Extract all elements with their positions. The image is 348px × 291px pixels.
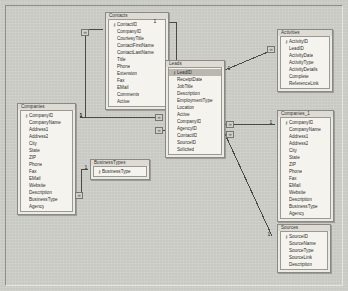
field-name: SourceType — [289, 247, 314, 254]
field-row[interactable]: LeadID — [281, 45, 329, 52]
field-row[interactable]: ZIP — [21, 154, 72, 161]
field-name: SourceLink — [289, 254, 312, 261]
field-row[interactable]: Website — [21, 182, 72, 189]
field-row[interactable]: JobTitle — [169, 83, 221, 90]
field-row[interactable]: ContactFirstName — [109, 42, 165, 49]
field-name: Fax — [29, 168, 37, 175]
field-row[interactable]: EMail — [109, 84, 165, 91]
field-row[interactable]: Agency — [21, 203, 72, 210]
field-row[interactable]: Phone — [21, 161, 72, 168]
field-name: CompanyName — [289, 126, 321, 133]
field-row[interactable]: Fax — [21, 168, 72, 175]
field-row-primary-key[interactable]: ⚷LeadID — [169, 69, 221, 76]
field-name: CompanyID — [289, 119, 313, 126]
field-row[interactable]: Location — [169, 104, 221, 111]
field-row[interactable]: CourtesyTitle — [109, 35, 165, 42]
cardinality-many-badge: ∞ — [155, 114, 163, 121]
field-name: SourceID — [289, 233, 308, 240]
field-row[interactable]: City — [21, 140, 72, 147]
field-row[interactable]: Description — [169, 90, 221, 97]
field-row[interactable]: EmploymentType — [169, 97, 221, 104]
cardinality-one-badge: 1 — [226, 66, 232, 71]
field-row[interactable]: Address1 — [281, 133, 330, 140]
field-row[interactable]: Solicited — [169, 146, 221, 153]
cardinality-many-badge: ∞ — [155, 127, 163, 134]
field-row[interactable]: Phone — [281, 168, 330, 175]
field-list: ⚷LeadIDReceiptDateJobTitleDescriptionEmp… — [168, 67, 222, 155]
field-name: ActivityID — [289, 38, 308, 45]
relationship-line[interactable] — [225, 134, 272, 236]
field-row[interactable]: Title — [109, 56, 165, 63]
field-row[interactable]: ReceiptDate — [169, 76, 221, 83]
field-row[interactable]: Fax — [281, 175, 330, 182]
field-name: ContactID — [177, 132, 197, 139]
field-row[interactable]: Phone — [109, 63, 165, 70]
field-row[interactable]: BusinessType — [281, 203, 330, 210]
field-row-primary-key[interactable]: ⚷BusinessType — [94, 168, 146, 175]
field-row[interactable]: ActivityDetails — [281, 66, 329, 73]
field-row[interactable]: SourceLink — [281, 254, 327, 261]
field-row-primary-key[interactable]: ⚷CompanyID — [281, 119, 330, 126]
field-row[interactable]: Website — [281, 189, 330, 196]
field-row[interactable]: Address2 — [281, 140, 330, 147]
field-row-primary-key[interactable]: ⚷SourceID — [281, 233, 327, 240]
field-row[interactable]: Description — [281, 261, 327, 268]
field-row[interactable]: Active — [169, 111, 221, 118]
field-name: SourceID — [177, 139, 196, 146]
cardinality-many-badge: ∞ — [267, 46, 275, 53]
field-row[interactable]: AgencyID — [169, 125, 221, 132]
field-row[interactable]: BusinessType — [21, 196, 72, 203]
field-row[interactable]: CompanyName — [21, 119, 72, 126]
field-row[interactable]: Description — [281, 196, 330, 203]
table-card[interactable]: Activities⚷ActivityIDLeadIDActivityDateA… — [277, 29, 333, 92]
field-row[interactable]: Description — [21, 189, 72, 196]
field-row[interactable]: CompanyID — [109, 28, 165, 35]
relationships-canvas[interactable]: Contacts⚷ContactIDCompanyIDCourtesyTitle… — [0, 0, 348, 291]
field-name: ActivityDetails — [289, 66, 318, 73]
field-row[interactable]: ReferenceLink — [281, 80, 329, 87]
field-row[interactable]: SourceID — [169, 139, 221, 146]
field-row[interactable]: EMail — [21, 175, 72, 182]
table-card[interactable]: Contacts⚷ContactIDCompanyIDCourtesyTitle… — [105, 12, 169, 110]
field-name: CompanyID — [177, 118, 201, 125]
field-row[interactable]: ContactID — [169, 132, 221, 139]
field-row[interactable]: State — [281, 154, 330, 161]
field-row-primary-key[interactable]: ⚷CompanyID — [21, 112, 72, 119]
field-row[interactable]: ActivityDate — [281, 52, 329, 59]
table-card[interactable]: Companies_1⚷CompanyIDCompanyNameAddress1… — [277, 110, 334, 222]
field-row[interactable]: SourceName — [281, 240, 327, 247]
relationship-line[interactable] — [80, 29, 103, 117]
field-row[interactable]: ZIP — [281, 161, 330, 168]
field-row[interactable]: EMail — [281, 182, 330, 189]
table-card[interactable]: Companies⚷CompanyIDCompanyNameAddress1Ad… — [17, 103, 76, 215]
field-row[interactable]: Fax — [109, 77, 165, 84]
cardinality-one-badge: 1 — [268, 120, 274, 125]
field-row[interactable]: Active — [109, 98, 165, 105]
cardinality-one-badge: 1 — [152, 19, 158, 24]
field-name: Solicited — [177, 146, 194, 153]
field-name: ContactID — [117, 21, 137, 28]
field-row[interactable]: CompanyName — [281, 126, 330, 133]
field-row-primary-key[interactable]: ⚷ActivityID — [281, 38, 329, 45]
field-row[interactable]: City — [281, 147, 330, 154]
field-row[interactable]: Address1 — [21, 126, 72, 133]
field-row[interactable]: ActivityType — [281, 59, 329, 66]
table-card[interactable]: Leads⚷LeadIDReceiptDateJobTitleDescripti… — [165, 60, 225, 158]
field-name: Phone — [29, 161, 42, 168]
field-row[interactable]: SourceType — [281, 247, 327, 254]
field-name: Title — [117, 56, 126, 63]
field-row[interactable]: Extension — [109, 70, 165, 77]
field-row[interactable]: Comments — [109, 91, 165, 98]
table-card[interactable]: BusinessTypes⚷BusinessType — [90, 159, 150, 180]
table-card[interactable]: Sources⚷SourceIDSourceNameSourceTypeSour… — [277, 224, 331, 273]
field-name: Website — [29, 182, 46, 189]
field-name: State — [29, 147, 40, 154]
field-row[interactable]: Agency — [281, 210, 330, 217]
field-row[interactable]: Complete — [281, 73, 329, 80]
field-row[interactable]: CompanyID — [169, 118, 221, 125]
field-name: EMail — [117, 84, 129, 91]
field-row[interactable]: ContactLastName — [109, 49, 165, 56]
field-row[interactable]: State — [21, 147, 72, 154]
field-name: Description — [289, 261, 312, 268]
field-row[interactable]: Address2 — [21, 133, 72, 140]
